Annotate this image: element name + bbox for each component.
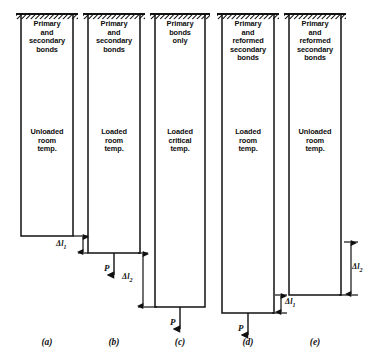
state-description-d: Loaded room temp. [222, 128, 274, 154]
state-description-a: Unloaded room temp. [21, 128, 73, 154]
bond-description-a: Primary and secondary bonds [21, 20, 73, 54]
hatch-tick [79, 14, 84, 19]
load-label-d: P [238, 323, 244, 333]
dimension-a [73, 236, 88, 253]
bond-description-b: Primary and secondary bonds [88, 20, 140, 54]
hatch-tick [280, 14, 285, 19]
dimension-subscript: 2 [359, 267, 362, 273]
dimension-label-b: Δl2 [122, 272, 132, 283]
bar-column-c [146, 14, 216, 329]
state-description-e: Unloaded room temp. [289, 128, 341, 154]
panel-caption-c: (c) [155, 337, 205, 347]
bar-column-b [79, 14, 157, 307]
panel-caption-b: (b) [88, 337, 140, 347]
dimension-subscript: 1 [292, 302, 295, 308]
load-label-c: P [170, 317, 176, 327]
panel-caption-d: (d) [222, 337, 274, 347]
panel-caption-e: (e) [289, 337, 341, 347]
dimension-label-e: Δl2 [352, 262, 362, 273]
bond-description-e: Primary and reformed secondary bonds [289, 20, 341, 63]
dimension-label-a: Δl1 [56, 239, 66, 250]
dimension-subscript: 2 [129, 277, 132, 283]
hatch-tick [146, 14, 151, 19]
state-description-c: Loaded critical temp. [155, 128, 205, 154]
dimension-b [138, 253, 157, 307]
load-label-b: P [104, 263, 110, 273]
hatch-tick [12, 14, 17, 19]
bond-description-c: Primary bonds only [155, 20, 205, 46]
hatch-tick [211, 14, 216, 19]
hatch-tick [213, 14, 218, 19]
dimension-subscript: 1 [63, 244, 66, 250]
bond-description-d: Primary and reformed secondary bonds [222, 20, 274, 63]
state-description-b: Loaded room temp. [88, 128, 140, 154]
bar-body-c [155, 14, 205, 307]
panel-caption-a: (a) [21, 337, 73, 347]
dimension-label-d: Δl1 [285, 297, 295, 308]
